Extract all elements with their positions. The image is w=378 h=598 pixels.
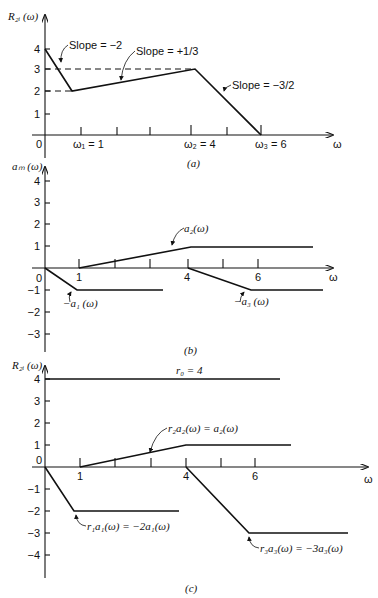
r1a1-curve (45, 467, 179, 511)
xtick: 6 (255, 271, 261, 283)
series-label: r₀ = 4 (176, 364, 203, 376)
ytick: −3 (27, 527, 40, 539)
origin: 0 (36, 272, 42, 284)
ytick: 1 (34, 240, 40, 252)
xtick: 4 (184, 271, 190, 283)
ytick: −1 (27, 284, 40, 296)
figure: R₂ᵢ (ω) 4 3 2 1 0 Slope = −2 Slope = +1/… (0, 0, 378, 598)
ytick: −4 (27, 549, 40, 561)
a2-curve (79, 247, 313, 268)
series-label: r₂a₂(ω) = a₂(ω) (168, 422, 238, 435)
ytick: −2 (27, 306, 40, 318)
xtick: 4 (183, 470, 189, 482)
y-label: aₘ (ω) (12, 160, 43, 173)
plot-c: R₂ᵢ (ω) 4 3 2 1 0 −1 −2 −3 −4 r₀ = 4 r₂a… (11, 359, 373, 595)
annotation: Slope = −3/2 (232, 79, 294, 91)
series-label: r₁a₁(ω) = −2a₁(ω) (87, 520, 170, 533)
ytick: 4 (34, 175, 40, 187)
ytick: 1 (34, 108, 40, 120)
ytick: −2 (27, 505, 40, 517)
xtick: ω₂ = 4 (184, 138, 216, 150)
x-label: ω (364, 473, 373, 485)
ytick: 3 (34, 196, 40, 208)
caption: (c) (185, 582, 198, 595)
ytick: 2 (34, 218, 40, 230)
series-label: −a₃ (ω) (234, 295, 269, 308)
neg-a1-curve (45, 268, 163, 290)
plot-b: aₘ (ω) 4 3 2 1 0 −1 −2 −3 −a₁ (ω) a₂(ω) … (12, 160, 338, 357)
r3a3-curve (186, 467, 348, 533)
xtick: 6 (252, 470, 258, 482)
caption: (a) (187, 157, 200, 170)
origin: 0 (36, 454, 42, 466)
annotation: Slope = −2 (69, 39, 122, 51)
series-label: −a₁ (ω) (63, 297, 98, 310)
x-label: ω (333, 138, 342, 150)
xtick: 1 (76, 271, 82, 283)
origin: 0 (36, 138, 42, 150)
plot-a: R₂ᵢ (ω) 4 3 2 1 0 Slope = −2 Slope = +1/… (7, 10, 342, 170)
r2i-curve (45, 49, 261, 135)
ytick: −1 (27, 483, 40, 495)
series-label: a₂(ω) (184, 222, 209, 235)
ytick: 4 (34, 373, 40, 385)
ytick: 3 (34, 63, 40, 75)
ytick: 2 (34, 85, 40, 97)
ytick: 3 (34, 395, 40, 407)
y-label: R₂ᵢ (ω) (11, 359, 42, 372)
caption: (b) (184, 344, 197, 357)
xtick: 1 (77, 470, 83, 482)
xtick: ω₁ = 1 (73, 138, 104, 150)
y-label: R₂ᵢ (ω) (7, 10, 38, 23)
annotation: Slope = +1/3 (136, 45, 198, 57)
ytick: −3 (27, 328, 40, 340)
xtick: ω₃ = 6 (255, 138, 287, 150)
ytick: 1 (34, 439, 40, 451)
ytick: 2 (34, 417, 40, 429)
ytick: 4 (34, 43, 40, 55)
series-label: r₃a₃(ω) = −3a₃(ω) (260, 542, 343, 555)
x-label: ω (329, 271, 338, 283)
